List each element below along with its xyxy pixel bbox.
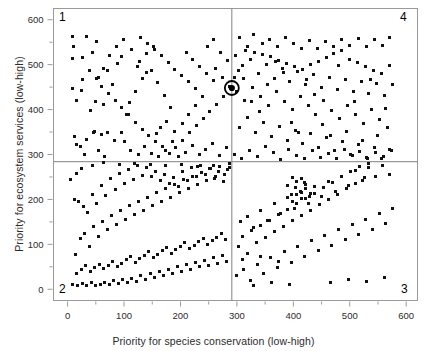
svg-text:300: 300 xyxy=(229,310,245,321)
quadrant-label-1: 1 xyxy=(59,10,66,24)
y-axis-title: Priority for ecosystem services (low-hig… xyxy=(13,8,25,300)
svg-text:0: 0 xyxy=(38,284,43,295)
svg-text:0: 0 xyxy=(65,310,70,321)
svg-text:400: 400 xyxy=(28,104,44,115)
x-axis-title: Priority for species conservation (low-h… xyxy=(0,335,427,347)
plot-canvas: 01002003004005006000100200300400500600 xyxy=(0,0,427,351)
svg-text:400: 400 xyxy=(285,310,301,321)
quadrant-label-4: 4 xyxy=(400,10,407,24)
svg-text:200: 200 xyxy=(28,194,44,205)
scatter-chart: 01002003004005006000100200300400500600 P… xyxy=(0,0,427,351)
axis-ticks xyxy=(48,20,407,307)
svg-text:500: 500 xyxy=(342,310,358,321)
svg-text:600: 600 xyxy=(398,310,414,321)
svg-text:200: 200 xyxy=(173,310,189,321)
svg-text:600: 600 xyxy=(28,14,44,25)
svg-text:500: 500 xyxy=(28,59,44,70)
svg-text:100: 100 xyxy=(116,310,132,321)
svg-text:300: 300 xyxy=(28,149,44,160)
quadrant-label-2: 2 xyxy=(59,282,66,296)
quadrant-label-3: 3 xyxy=(401,282,408,296)
svg-text:100: 100 xyxy=(28,239,44,250)
